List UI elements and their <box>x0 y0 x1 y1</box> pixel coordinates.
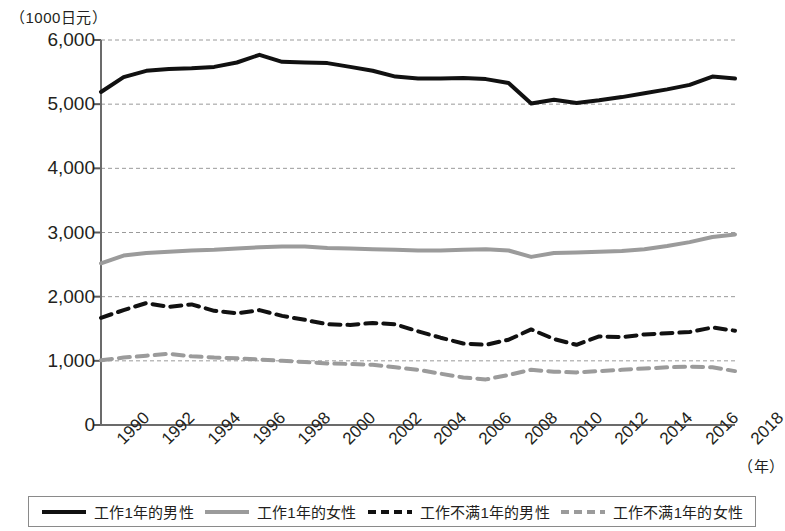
y-tick-label: 3,000 <box>11 222 95 244</box>
legend-item-4[interactable]: 工作不满1年的女性 <box>560 501 743 522</box>
y-tick-label: 1,000 <box>11 350 95 372</box>
y-tick-label: 2,000 <box>11 286 95 308</box>
dashed-black-line-icon <box>367 505 413 519</box>
series-line-1 <box>101 55 735 104</box>
solid-black-line-icon <box>41 505 87 519</box>
solid-gray-line-icon <box>204 505 250 519</box>
y-tick-label: 4,000 <box>11 157 95 179</box>
legend-item-1[interactable]: 工作1年的男性 <box>41 501 194 522</box>
x-axis-unit-label: （年） <box>738 455 785 476</box>
plot-area <box>0 0 785 531</box>
y-tick-label: 0 <box>11 414 95 436</box>
legend-label: 工作不满1年的女性 <box>613 501 743 522</box>
legend-item-3[interactable]: 工作不满1年的男性 <box>367 501 550 522</box>
series-line-2 <box>101 234 735 263</box>
chart-legend: 工作1年的男性工作1年的女性工作不满1年的男性工作不满1年的女性 <box>28 496 756 527</box>
y-tick-label: 6,000 <box>11 29 95 51</box>
y-tick-label: 5,000 <box>11 93 95 115</box>
series-line-4 <box>101 354 735 380</box>
series-line-3 <box>101 303 735 345</box>
legend-label: 工作不满1年的男性 <box>420 501 550 522</box>
legend-item-2[interactable]: 工作1年的女性 <box>204 501 357 522</box>
legend-label: 工作1年的女性 <box>257 501 357 522</box>
legend-label: 工作1年的男性 <box>94 501 194 522</box>
dashed-gray-line-icon <box>560 505 606 519</box>
line-chart: （1000日元） 6,0005,0004,0003,0002,0001,0000… <box>0 0 785 531</box>
y-axis-tick-labels: 6,0005,0004,0003,0002,0001,0000 <box>5 0 95 531</box>
